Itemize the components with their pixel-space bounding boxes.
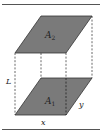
prism-diagram: A2 A1 L x y [0, 0, 102, 133]
label-length-l: L [5, 77, 11, 86]
label-depth-y: y [78, 100, 84, 109]
label-width-x: x [41, 118, 46, 127]
bottom-face-a1 [15, 78, 92, 115]
